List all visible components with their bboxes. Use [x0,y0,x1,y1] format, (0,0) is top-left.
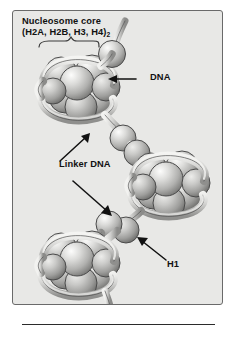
diagram-panel: Nucleosome core (H2A, H2B, H3, H4)2 DNA … [12,10,223,305]
dna-free-end-bottom [105,291,110,305]
nucleosome-core-title: Nucleosome core (H2A, H2B, H3, H4)2 [22,16,110,39]
caption-divider [22,324,215,325]
title-line-1: Nucleosome core [22,16,110,27]
nucleosome-bottom [38,231,120,299]
label-linker-dna: Linker DNA [59,159,111,170]
figure-root: Nucleosome core (H2A, H2B, H3, H4)2 DNA … [0,0,237,338]
linker-dna-arrow-down-icon [73,181,112,216]
title-line-2: (H2A, H2B, H3, H4)2 [22,27,110,39]
label-dna: DNA [150,72,170,83]
title-subscript: 2 [106,31,110,38]
title-line-2-text: (H2A, H2B, H3, H4) [22,27,106,37]
linker-dna-arrow-up-icon [60,133,90,161]
label-h1: H1 [167,259,179,270]
diagram-panel-inner: Nucleosome core (H2A, H2B, H3, H4)2 DNA … [13,11,222,304]
chromatin-illustration [13,11,223,305]
h1-arrow-icon [137,237,166,260]
